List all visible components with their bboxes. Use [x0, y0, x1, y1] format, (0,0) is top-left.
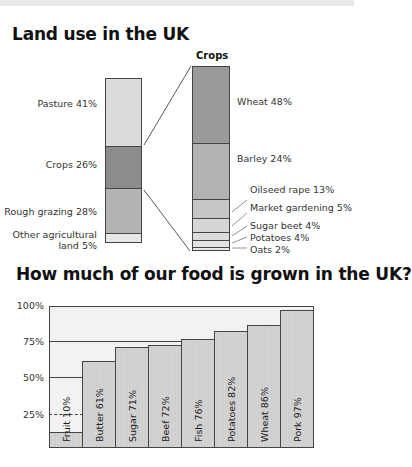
segment-wheat	[192, 66, 230, 144]
ytick-50: 50%	[4, 372, 44, 383]
segment-pasture	[105, 78, 142, 147]
segment-rough-grazing	[105, 188, 142, 234]
label-oilseed-rape: Oilseed rape 13%	[250, 184, 334, 195]
bar-label-fish: Fish 76%	[193, 399, 204, 442]
bar-label-pork: Pork 97%	[292, 397, 303, 442]
label-other-land-line2: land 5%	[58, 240, 97, 251]
crops-header: Crops	[196, 50, 228, 61]
ytick-25: 25%	[4, 409, 44, 420]
bar-label-wrap-potatoes: Potatoes 82%	[214, 380, 248, 448]
label-market-gardening: Market gardening 5%	[250, 202, 352, 213]
food-title: How much of our food is grown in the UK?	[16, 264, 412, 284]
label-oats: Oats 2%	[250, 244, 290, 255]
label-crops: Crops 26%	[46, 159, 97, 170]
ytick-75: 75%	[4, 336, 44, 347]
bar-label-butter: Butter 61%	[94, 388, 105, 442]
bar-label-wrap-butter: Butter 61%	[82, 380, 116, 448]
bar-label-beef: Beef 72%	[160, 396, 171, 442]
bar-label-fruit: Fruit 10%	[61, 397, 72, 442]
label-wheat: Wheat 48%	[237, 96, 292, 107]
bar-label-wrap-fruit: Fruit 10%	[49, 380, 83, 448]
bar-label-wheat: Wheat 86%	[259, 387, 270, 442]
bar-label-sugar: Sugar 71%	[127, 390, 138, 442]
label-barley: Barley 24%	[237, 153, 292, 164]
bar-label-wrap-sugar: Sugar 71%	[115, 380, 149, 448]
label-potatoes: Potatoes 4%	[250, 232, 309, 243]
bar-label-wrap-beef: Beef 72%	[148, 380, 182, 448]
bar-label-wrap-wheat: Wheat 86%	[247, 380, 281, 448]
bar-label-potatoes: Potatoes 82%	[226, 377, 237, 442]
segment-oilseed-rape	[192, 199, 230, 219]
ytick-100: 100%	[4, 300, 44, 311]
segment-other-land	[105, 233, 142, 243]
bar-label-wrap-pork: Pork 97%	[280, 380, 314, 448]
label-rough-grazing: Rough grazing 28%	[4, 206, 97, 217]
bar-label-wrap-fish: Fish 76%	[181, 380, 215, 448]
label-sugar-beet: Sugar beet 4%	[250, 220, 320, 231]
segment-barley	[192, 143, 230, 200]
segment-crops	[105, 146, 142, 189]
segment-market-gardening	[192, 218, 230, 233]
label-other-land-line1: Other agricultural	[13, 229, 97, 240]
segment-oats	[192, 247, 230, 251]
label-pasture: Pasture 41%	[38, 98, 98, 109]
